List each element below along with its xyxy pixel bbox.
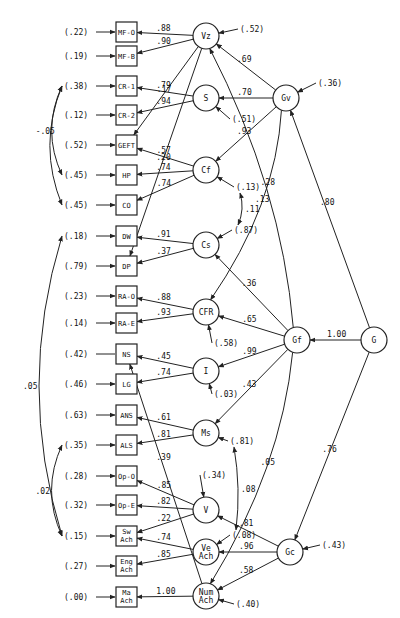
observed-mf-o: MF-O — [116, 22, 137, 42]
latent-label: Ach — [199, 552, 214, 561]
observed-label: Op-O — [118, 473, 135, 481]
latent-label: Vz — [201, 32, 211, 41]
observed-label: GEFT — [118, 142, 136, 150]
observed-label: Sw — [122, 528, 131, 536]
latent-gv: Gv — [273, 85, 299, 111]
observed-op-e: Op-E — [116, 495, 137, 515]
error-variance: (.52) — [64, 141, 88, 150]
error-variance: (.12) — [64, 111, 88, 120]
disturbance-arrow — [208, 325, 212, 343]
labels-layer: (.22)(.19)(.38)(.12)(.52)(.45)(.45)(.18)… — [23, 24, 346, 609]
disturbance-arrow — [216, 107, 230, 119]
path-coefficient: .99 — [242, 347, 257, 356]
path-numach-to-maach — [137, 596, 193, 597]
error-variance: (.79) — [64, 262, 88, 271]
observed-label: CO — [122, 202, 130, 210]
latent-label: Gv — [281, 94, 291, 103]
latent-label: CFR — [199, 308, 214, 317]
path-coefficient: .58 — [239, 566, 254, 575]
disturbance-arrow — [217, 177, 234, 187]
correlation-ms-veach — [234, 447, 238, 530]
latent-label: G — [372, 336, 377, 345]
path-diagram: MF-OMF-BCR-1CR-2GEFTHPCODWDPRA-ORA-ENSLG… — [0, 0, 400, 618]
path-coefficient: .91 — [156, 230, 171, 239]
path-coefficient: .37 — [156, 247, 171, 256]
path-coefficient: .74 — [156, 163, 171, 172]
latent-label: Cf — [201, 166, 211, 175]
latent-label: V — [204, 506, 209, 515]
disturbance-arrow — [217, 230, 232, 239]
observed-label: LG — [122, 381, 130, 389]
path-coefficient: .94 — [156, 97, 171, 106]
path-coefficient: .22 — [156, 514, 171, 523]
latent-label: S — [204, 94, 209, 103]
latent-label: Ms — [201, 429, 211, 438]
correlation-value: .08 — [241, 485, 256, 494]
error-variance: (.23) — [64, 292, 88, 301]
observed-label: HP — [122, 172, 130, 180]
error-variance: (.42) — [64, 350, 88, 359]
disturbance-arrow — [303, 545, 320, 549]
error-variance: (.14) — [64, 319, 88, 328]
path-gv-to-vz — [216, 44, 275, 90]
observed-label: Ach — [120, 597, 133, 605]
latent-numach: NumAch — [193, 583, 219, 609]
path-coefficient: .05 — [261, 458, 276, 467]
latent-gf: Gf — [284, 327, 310, 353]
observed-lg: LG — [116, 374, 137, 394]
path-coefficient: .96 — [239, 542, 254, 551]
latent-veach: VeAch — [193, 539, 219, 565]
observed-mf-b: MF-B — [116, 46, 137, 66]
path-vz-to-mf-o — [137, 33, 193, 36]
correlation-value: .05 — [23, 382, 38, 391]
error-variance: (.46) — [64, 380, 88, 389]
observed-cr-2: CR-2 — [116, 105, 137, 125]
disturbance-variance: (.03) — [214, 390, 238, 399]
path-coefficient: .81 — [156, 430, 171, 439]
observed-engach: EngAch — [116, 556, 137, 576]
observed-label: CR-1 — [118, 83, 135, 91]
error-variance: (.32) — [64, 501, 88, 510]
observed-swach: SwAch — [116, 526, 137, 546]
latent-label: Ach — [199, 596, 214, 605]
observed-label: DP — [122, 263, 130, 271]
observed-label: RA-E — [118, 320, 135, 328]
path-coefficient: .79 — [156, 81, 171, 90]
path-coefficient: .81 — [239, 519, 254, 528]
path-coefficient: .76 — [322, 445, 337, 454]
observed-ans: ANS — [116, 405, 137, 425]
error-variance: (.28) — [64, 472, 88, 481]
path-coefficient: .13 — [255, 195, 270, 204]
error-variance: (.00) — [64, 593, 88, 602]
observed-label: Ach — [120, 536, 133, 544]
latent-v: V — [193, 497, 219, 523]
disturbance-variance: (.43) — [322, 541, 346, 550]
path-coefficient: .88 — [156, 293, 171, 302]
disturbance-arrow — [209, 384, 212, 394]
path-coefficient: .57 — [156, 146, 171, 155]
path-coefficient: .74 — [156, 533, 171, 542]
observed-als: ALS — [116, 435, 137, 455]
disturbance-variance: (.34) — [202, 471, 226, 480]
path-coefficient: .80 — [320, 198, 335, 207]
path-coefficient: .85 — [156, 550, 171, 559]
error-variance: (.19) — [64, 52, 88, 61]
error-variance: (.15) — [64, 532, 88, 541]
observed-label: DW — [122, 233, 131, 241]
latent-gc: Gc — [277, 539, 303, 565]
observed-label: Ma — [122, 589, 130, 597]
observed-label: RA-O — [118, 293, 135, 301]
disturbance-variance: (.52) — [240, 25, 264, 34]
observed-label: MF-O — [118, 29, 135, 37]
path-coefficient: 1.00 — [156, 587, 175, 596]
observed-co: CO — [116, 195, 137, 215]
path-coefficient: .69 — [237, 55, 252, 64]
error-variance: (.63) — [64, 411, 88, 420]
correlation-cr-1-co — [50, 86, 62, 205]
path-coefficient: .82 — [156, 497, 171, 506]
disturbance-arrow — [219, 29, 238, 33]
observed-dw: DW — [116, 226, 137, 246]
path-coefficient: .93 — [156, 308, 171, 317]
path-coefficient: .85 — [157, 481, 172, 490]
disturbance-arrow — [218, 600, 234, 604]
